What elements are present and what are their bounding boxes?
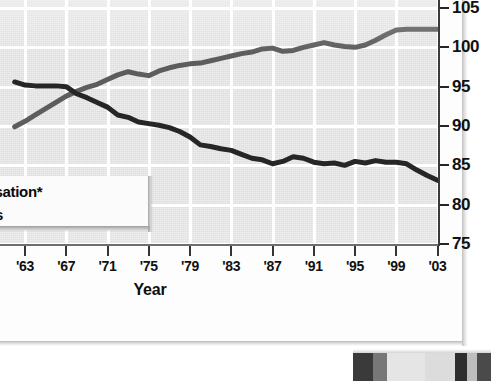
y-axis-line	[438, 0, 440, 246]
legend-item-hours: ekly hours	[0, 203, 148, 226]
x-tick-label-1975: '75	[140, 259, 158, 273]
y-tick-105	[440, 7, 449, 9]
y-tick-label-100: 100	[452, 38, 479, 55]
figure-root: 1051009590858075 '63'67'71'75'79'83'87'9…	[0, 0, 491, 381]
x-tick-1967	[65, 246, 67, 256]
x-tick-1963	[24, 246, 26, 256]
x-tick-label-1983: '83	[222, 259, 240, 273]
y-tick-label-105: 105	[452, 0, 479, 16]
legend-label-compensation: l compensation*	[0, 183, 42, 200]
x-tick-1975	[148, 246, 150, 256]
photo-tile-4	[455, 353, 467, 381]
x-tick-label-1967: '67	[57, 259, 75, 273]
series-line-hours	[15, 82, 438, 180]
x-tick-2003	[437, 246, 439, 256]
legend-shadow-right	[148, 176, 153, 232]
x-tick-1979	[189, 246, 191, 256]
photo-tile-6	[477, 353, 491, 381]
x-axis-title: Year	[0, 281, 300, 299]
y-tick-85	[440, 164, 449, 166]
y-tick-label-90: 90	[452, 117, 470, 134]
chart-card-shadow	[0, 341, 462, 346]
x-tick-label-1995: '95	[346, 259, 364, 273]
y-tick-label-85: 85	[452, 156, 470, 173]
x-tick-label-1991: '91	[305, 259, 323, 273]
x-tick-1971	[107, 246, 109, 256]
y-tick-100	[440, 46, 449, 48]
x-tick-1987	[272, 246, 274, 256]
photo-tile-1	[373, 353, 387, 381]
y-tick-95	[440, 86, 449, 88]
x-tick-1983	[230, 246, 232, 256]
y-tick-80	[440, 204, 449, 206]
y-tick-label-75: 75	[452, 235, 470, 252]
photo-tile-0	[353, 353, 373, 381]
x-tick-label-1963: '63	[16, 259, 34, 273]
legend-box: l compensation* ekly hours	[0, 176, 148, 226]
photo-strip	[353, 353, 491, 381]
x-tick-1999	[395, 246, 397, 256]
x-tick-1995	[354, 246, 356, 256]
photo-tile-5	[467, 353, 477, 381]
legend-label-hours: ekly hours	[0, 206, 3, 223]
y-tick-label-80: 80	[452, 196, 470, 213]
x-tick-label-1971: '71	[98, 259, 116, 273]
x-tick-label-1987: '87	[263, 259, 281, 273]
y-tick-75	[440, 243, 449, 245]
legend-item-compensation: l compensation*	[0, 180, 148, 203]
x-tick-label-1999: '99	[387, 259, 405, 273]
y-tick-label-95: 95	[452, 78, 470, 95]
photo-tile-3	[425, 353, 455, 381]
photo-tile-2	[387, 353, 425, 381]
x-tick-label-2003: '03	[428, 259, 446, 273]
series-line-compensation	[15, 29, 438, 127]
y-tick-90	[440, 125, 449, 127]
x-tick-1991	[313, 246, 315, 256]
legend-shadow-bottom	[0, 226, 150, 232]
x-tick-label-1979: '79	[181, 259, 199, 273]
